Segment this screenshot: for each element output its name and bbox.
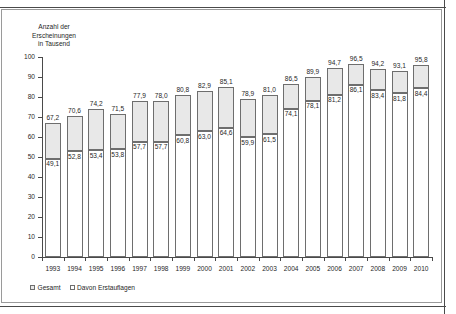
legend-item-erstauflagen[interactable]: Davon Erstauflagen — [70, 284, 135, 291]
bar-segment-gesamt[interactable] — [197, 91, 213, 131]
chart-figure: Anzahl der Erscheinungen in Tausend 0102… — [0, 0, 456, 314]
bar-column[interactable]: 70,652,8 — [67, 57, 83, 257]
bar-label-gesamt: 94,2 — [371, 60, 384, 67]
x-tick — [345, 257, 346, 261]
x-tick-label: 2002 — [237, 265, 259, 272]
bar-label-erstauflagen: 78,1 — [306, 102, 319, 109]
legend-swatch-icon-erstauflagen — [70, 285, 75, 290]
bar-segment-erstauflagen[interactable] — [370, 90, 386, 257]
bar-segment-gesamt[interactable] — [175, 95, 191, 135]
bar-label-erstauflagen: 63,0 — [198, 133, 211, 140]
bar-segment-gesamt[interactable] — [262, 95, 278, 134]
y-tick-label: 100 — [24, 53, 35, 60]
bar-column[interactable]: 81,061,5 — [262, 57, 278, 257]
bar-segment-gesamt[interactable] — [283, 84, 299, 109]
x-tick — [237, 257, 238, 261]
bar-column[interactable]: 67,249,1 — [45, 57, 61, 257]
bar-segment-erstauflagen[interactable] — [305, 101, 321, 257]
bar-segment-erstauflagen[interactable] — [392, 93, 408, 257]
bar-column[interactable]: 74,253,4 — [88, 57, 104, 257]
y-axis-line — [42, 57, 43, 257]
x-tick-label: 2006 — [324, 265, 346, 272]
bar-column[interactable]: 94,283,4 — [370, 57, 386, 257]
bar-column[interactable]: 80,860,8 — [175, 57, 191, 257]
y-tick: 80 — [38, 97, 42, 98]
bar-label-gesamt: 78,9 — [241, 90, 254, 97]
bar-segment-erstauflagen[interactable] — [175, 135, 191, 257]
y-tick: 10 — [38, 237, 42, 238]
bar-segment-erstauflagen[interactable] — [88, 150, 104, 257]
bar-segment-gesamt[interactable] — [413, 65, 429, 88]
x-tick — [172, 257, 173, 261]
bar-segment-gesamt[interactable] — [110, 114, 126, 149]
bar-label-gesamt: 95,8 — [415, 56, 428, 63]
legend-label-erstauflagen: Davon Erstauflagen — [77, 284, 135, 291]
bar-label-gesamt: 82,9 — [198, 82, 211, 89]
bar-label-gesamt: 93,1 — [393, 62, 406, 69]
bar-column[interactable]: 93,181,8 — [392, 57, 408, 257]
bar-segment-erstauflagen[interactable] — [327, 95, 343, 257]
bar-label-gesamt: 86,5 — [285, 75, 298, 82]
bar-segment-erstauflagen[interactable] — [283, 109, 299, 257]
bar-column[interactable]: 89,978,1 — [305, 57, 321, 257]
bar-label-erstauflagen: 57,7 — [133, 143, 146, 150]
bar-column[interactable]: 94,781,2 — [327, 57, 343, 257]
bar-column[interactable]: 71,553,8 — [110, 57, 126, 257]
bar-column[interactable]: 82,963,0 — [197, 57, 213, 257]
x-tick — [150, 257, 151, 261]
bar-label-erstauflagen: 83,4 — [371, 92, 384, 99]
bar-segment-erstauflagen[interactable] — [197, 131, 213, 257]
bar-segment-gesamt[interactable] — [132, 101, 148, 141]
legend-item-gesamt[interactable]: Gesamt — [30, 284, 61, 291]
x-tick — [410, 257, 411, 261]
bar-segment-erstauflagen[interactable] — [262, 134, 278, 257]
x-tick — [324, 257, 325, 261]
bar-segment-gesamt[interactable] — [67, 116, 83, 152]
top-rule — [0, 7, 446, 8]
bar-column[interactable]: 85,164,6 — [218, 57, 234, 257]
bar-column[interactable]: 77,957,7 — [132, 57, 148, 257]
x-tick-label: 2008 — [367, 265, 389, 272]
bar-segment-erstauflagen[interactable] — [153, 142, 169, 257]
bar-column[interactable]: 96,586,1 — [348, 57, 364, 257]
y-tick: 100 — [38, 57, 42, 58]
bar-segment-erstauflagen[interactable] — [348, 85, 364, 257]
bar-segment-gesamt[interactable] — [348, 64, 364, 85]
bar-column[interactable]: 86,574,1 — [283, 57, 299, 257]
bar-segment-erstauflagen[interactable] — [45, 159, 61, 257]
bar-segment-gesamt[interactable] — [392, 71, 408, 94]
bar-segment-erstauflagen[interactable] — [110, 149, 126, 257]
bar-segment-gesamt[interactable] — [153, 101, 169, 142]
bar-segment-erstauflagen[interactable] — [132, 142, 148, 257]
bar-label-gesamt: 81,0 — [263, 86, 276, 93]
x-tick-label: 1997 — [129, 265, 151, 272]
bar-segment-gesamt[interactable] — [240, 99, 256, 137]
bar-label-erstauflagen: 61,5 — [263, 136, 276, 143]
bar-segment-erstauflagen[interactable] — [413, 88, 429, 257]
bar-label-erstauflagen: 60,8 — [176, 137, 189, 144]
bar-column[interactable]: 78,959,9 — [240, 57, 256, 257]
bar-segment-gesamt[interactable] — [370, 69, 386, 91]
bar-segment-erstauflagen[interactable] — [218, 128, 234, 257]
x-tick — [129, 257, 130, 261]
bar-label-gesamt: 67,2 — [46, 114, 59, 121]
y-tick: 30 — [38, 197, 42, 198]
bar-segment-erstauflagen[interactable] — [67, 151, 83, 257]
bar-label-erstauflagen: 74,1 — [285, 110, 298, 117]
bar-segment-gesamt[interactable] — [45, 123, 61, 159]
bar-label-erstauflagen: 53,4 — [90, 152, 103, 159]
y-tick-label: 10 — [28, 233, 35, 240]
bar-column[interactable]: 95,884,4 — [413, 57, 429, 257]
bar-label-erstauflagen: 64,6 — [220, 129, 233, 136]
y-tick-label: 90 — [28, 73, 35, 80]
bar-segment-gesamt[interactable] — [327, 68, 343, 95]
bar-label-erstauflagen: 86,1 — [350, 86, 363, 93]
bar-segment-gesamt[interactable] — [88, 109, 104, 151]
y-tick-label: 70 — [28, 113, 35, 120]
bar-segment-erstauflagen[interactable] — [240, 137, 256, 257]
y-tick-label: 0 — [31, 253, 35, 260]
bar-label-gesamt: 70,6 — [68, 107, 81, 114]
bar-segment-gesamt[interactable] — [218, 87, 234, 128]
bar-column[interactable]: 78,057,7 — [153, 57, 169, 257]
bar-segment-gesamt[interactable] — [305, 77, 321, 101]
